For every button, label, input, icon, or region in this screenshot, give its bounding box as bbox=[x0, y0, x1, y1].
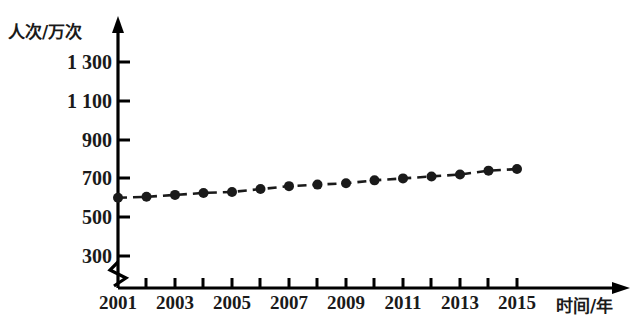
x-tick-label: 2007 bbox=[270, 292, 308, 314]
x-tick-label: 2009 bbox=[327, 292, 365, 314]
x-tick-label: 2015 bbox=[498, 292, 536, 314]
series-markers bbox=[113, 164, 522, 203]
data-point bbox=[313, 180, 323, 190]
x-tick-label: 2013 bbox=[441, 292, 479, 314]
data-point bbox=[512, 164, 522, 174]
data-point bbox=[370, 175, 380, 185]
data-point bbox=[484, 166, 494, 176]
y-tick-label: 700 bbox=[82, 167, 112, 190]
y-tick-label: 1 300 bbox=[67, 51, 112, 74]
data-point bbox=[199, 188, 209, 198]
data-point bbox=[227, 187, 237, 197]
data-point bbox=[427, 171, 437, 181]
x-tick-label: 2005 bbox=[213, 292, 251, 314]
data-point bbox=[341, 178, 351, 188]
y-axis-ticks bbox=[118, 62, 130, 256]
y-tick-label: 900 bbox=[82, 128, 112, 151]
x-tick-label: 2003 bbox=[156, 292, 194, 314]
data-point bbox=[113, 193, 123, 203]
data-point bbox=[284, 181, 294, 191]
x-tick-label: 2001 bbox=[99, 292, 137, 314]
x-axis-arrow-icon bbox=[612, 282, 630, 294]
y-tick-label: 500 bbox=[82, 206, 112, 229]
data-point bbox=[455, 170, 465, 180]
chart-canvas bbox=[0, 0, 642, 317]
data-point bbox=[170, 190, 180, 200]
data-point bbox=[398, 173, 408, 183]
x-tick-label: 2011 bbox=[385, 292, 422, 314]
data-series-renjiang bbox=[113, 164, 522, 203]
axes bbox=[110, 16, 630, 294]
line-chart: 人次/万次 时间/年 3005007009001 1001 300 200120… bbox=[0, 0, 642, 317]
x-axis-title: 时间/年 bbox=[556, 292, 613, 317]
y-axis-title: 人次/万次 bbox=[8, 18, 82, 43]
y-axis-arrow-icon bbox=[112, 16, 124, 33]
data-point bbox=[142, 192, 152, 202]
y-tick-label: 1 100 bbox=[67, 89, 112, 112]
y-tick-label: 300 bbox=[82, 245, 112, 268]
data-point bbox=[256, 184, 266, 194]
